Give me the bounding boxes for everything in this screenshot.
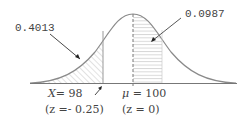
left-tail-hatch [28, 0, 103, 83]
right-probability-label: 0.0987 [185, 9, 225, 20]
center-right-hatch [133, 0, 162, 83]
x-z-label: (z =- 0.25) [45, 104, 104, 115]
x-var: X [48, 87, 56, 100]
left-probability-label: 0.4013 [15, 23, 55, 34]
mu-eq: = 100 [133, 87, 167, 100]
leader-right [152, 18, 181, 41]
leader-left [50, 34, 80, 59]
mu-z-label: (z = 0) [122, 104, 160, 115]
x-value-label: X= 98 [48, 88, 83, 99]
arrow-left [75, 54, 80, 59]
x-eq: = 98 [56, 87, 83, 100]
mu-label: μ = 100 [122, 88, 166, 99]
mu-var: μ [122, 87, 129, 100]
